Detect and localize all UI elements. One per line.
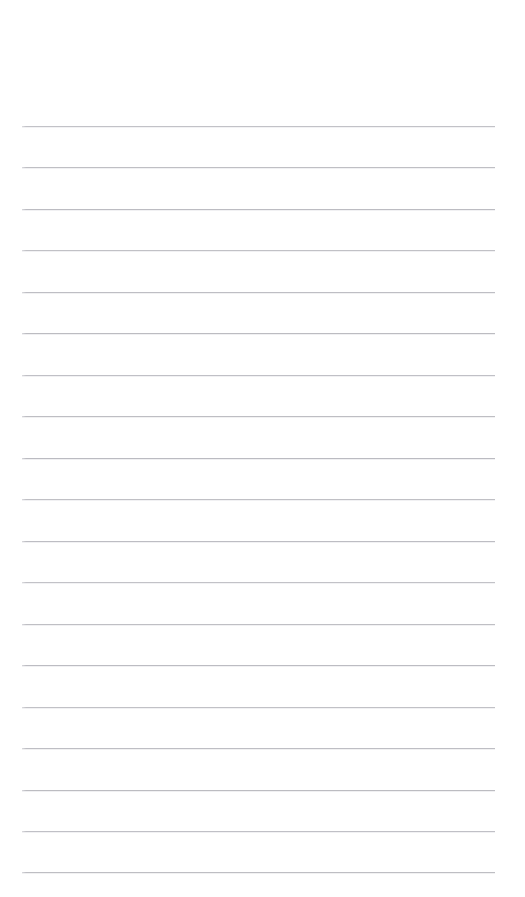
rule-line xyxy=(22,333,495,334)
rule-line xyxy=(22,748,495,749)
rule-line xyxy=(22,250,495,251)
rule-line xyxy=(22,790,495,791)
rule-line xyxy=(22,624,495,625)
rule-line xyxy=(22,665,495,666)
rule-line xyxy=(22,541,495,542)
rule-line xyxy=(22,831,495,832)
rule-line xyxy=(22,416,495,417)
rule-line xyxy=(22,582,495,583)
rule-line-group xyxy=(0,0,525,897)
rule-line xyxy=(22,292,495,293)
rule-line xyxy=(22,499,495,500)
rule-line xyxy=(22,209,495,210)
rule-line xyxy=(22,458,495,459)
lined-paper-page xyxy=(0,0,525,897)
rule-line xyxy=(22,707,495,708)
rule-line xyxy=(22,375,495,376)
rule-line xyxy=(22,167,495,168)
rule-line xyxy=(22,872,495,873)
rule-line xyxy=(22,126,495,127)
